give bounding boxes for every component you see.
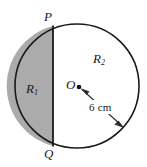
region-label-r1: R1 [26, 82, 38, 97]
point-label-q: Q [44, 147, 53, 160]
circle-segment-figure: P Q O R1 R2 6 cm [0, 0, 147, 167]
unshaded-region-r2 [53, 26, 99, 146]
region-label-r1-subscript: 1 [34, 88, 38, 97]
center-point-dot [77, 85, 82, 90]
point-label-p: P [44, 10, 52, 23]
region-label-r2: R2 [93, 52, 105, 67]
region-label-r2-subscript: 2 [101, 58, 105, 67]
region-label-r1-base: R [26, 81, 34, 96]
radius-arrowhead-to-edge [115, 121, 125, 129]
radius-measurement-label: 6 cm [89, 102, 112, 113]
center-label-o: O [66, 78, 75, 91]
region-label-r2-base: R [93, 51, 101, 66]
